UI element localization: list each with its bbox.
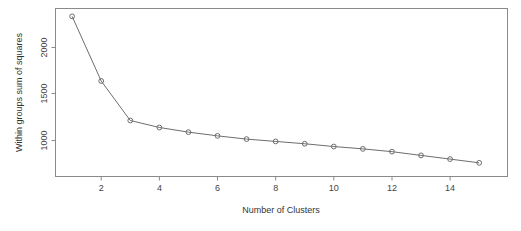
y-axis-title: Within groups sum of squares (14, 32, 24, 152)
x-tick-label-2: 2 (99, 183, 104, 193)
x-tick-label-8: 8 (273, 183, 278, 193)
x-tick-label-10: 10 (329, 183, 339, 193)
y-tick-label-1500: 1500 (39, 83, 49, 103)
y-tick-label-2000: 2000 (39, 37, 49, 57)
x-tick-label-4: 4 (157, 183, 162, 193)
elbow-plot: 2000 1500 1000 Within groups sum of squa… (0, 0, 521, 231)
x-axis-title: Number of Clusters (242, 205, 320, 215)
chart-screenshot: 2000 1500 1000 Within groups sum of squa… (0, 0, 521, 231)
x-tick-label-14: 14 (445, 183, 455, 193)
y-axis-tick-labels: 2000 1500 1000 (39, 37, 49, 150)
x-tick-label-6: 6 (215, 183, 220, 193)
x-tick-label-12: 12 (387, 183, 397, 193)
y-tick-label-1000: 1000 (39, 130, 49, 150)
plot-background (0, 0, 521, 231)
